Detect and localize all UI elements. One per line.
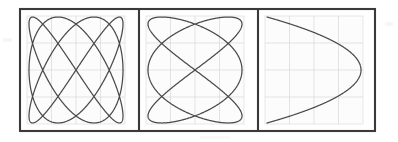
scan-smudge-right [385,22,393,26]
scan-smudge-bottom [200,136,230,139]
lissajous-svg-canvas [0,0,398,142]
lissajous-figure [0,0,398,142]
scan-smudge-left [3,38,12,42]
